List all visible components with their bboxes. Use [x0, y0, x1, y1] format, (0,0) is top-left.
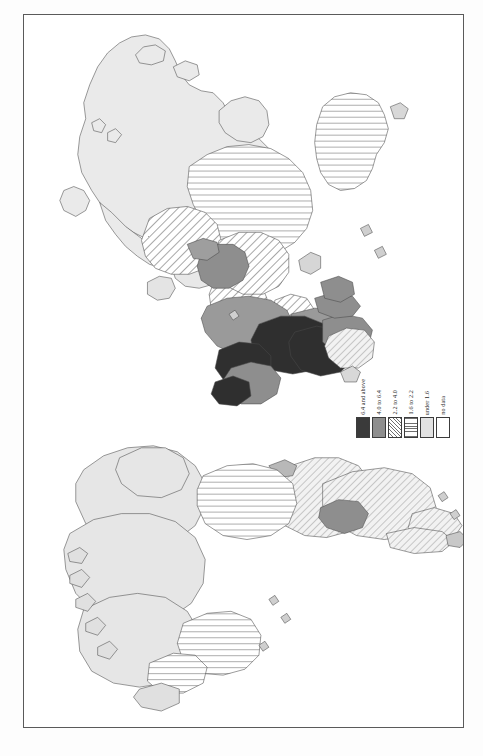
fertility-rate-legend: 6.4 and above 4.0 to 6.4 2.2 to 4.0 1.6 … [356, 379, 482, 463]
map-frame: 6.4 and above 4.0 to 6.4 2.2 to 4.0 1.6 … [23, 14, 464, 728]
world-map-canvas [24, 15, 463, 727]
legend-swatch-4 [420, 417, 434, 438]
legend-label-2: 2.2 to 4.0 [392, 390, 398, 414]
legend-item-4: under 1.6 [420, 391, 434, 438]
legend-label-3: 1.6 to 2.2 [408, 390, 414, 414]
legend-label-1: 4.0 to 6.4 [376, 390, 382, 414]
legend-item-3: 1.6 to 2.2 [404, 390, 418, 437]
legend-swatch-3 [404, 417, 418, 438]
page-canvas: 6.4 and above 4.0 to 6.4 2.2 to 4.0 1.6 … [0, 0, 483, 756]
legend-item-0: 6.4 and above [356, 379, 370, 438]
legend-item-5: no data [436, 396, 450, 438]
legend-swatch-1 [372, 417, 386, 438]
legend-label-4: under 1.6 [424, 391, 430, 415]
legend-label-0: 6.4 and above [360, 379, 366, 415]
legend-swatch-2 [388, 417, 402, 438]
legend-item-1: 4.0 to 6.4 [372, 390, 386, 437]
legend-swatch-0 [356, 417, 370, 438]
legend-label-5: no data [440, 396, 446, 415]
legend-row: 6.4 and above 4.0 to 6.4 2.2 to 4.0 1.6 … [356, 379, 450, 438]
legend-item-2: 2.2 to 4.0 [388, 390, 402, 437]
region-russia-lower [197, 464, 297, 540]
legend-swatch-5 [436, 417, 450, 438]
